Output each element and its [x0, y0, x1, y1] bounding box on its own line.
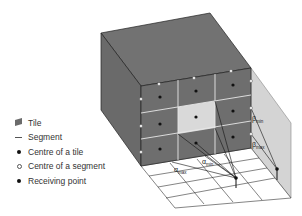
- legend-item-receiving-point: Receiving point: [12, 174, 105, 188]
- legend: Tile Segment Centre of a tile Centre of …: [12, 116, 105, 188]
- filled-dot-icon: [12, 174, 28, 188]
- segment-line-icon: [12, 131, 28, 145]
- filled-dot-icon: [12, 145, 28, 159]
- legend-item-segment-centre: Centre of a segment: [12, 159, 105, 173]
- tile-swatch-icon: [12, 116, 28, 130]
- open-dot-icon: [12, 159, 28, 173]
- legend-item-tile: Tile: [12, 116, 105, 130]
- legend-item-tile-centre: Centre of a tile: [12, 145, 105, 159]
- legend-item-segment: Segment: [12, 130, 105, 144]
